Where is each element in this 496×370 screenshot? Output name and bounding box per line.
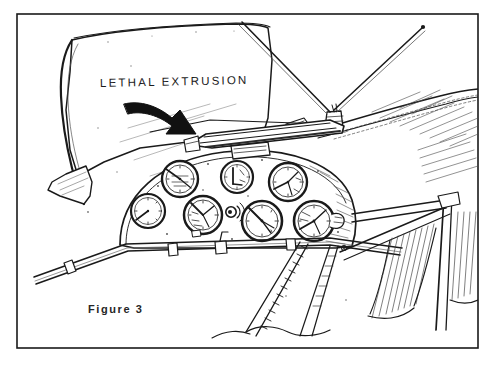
gauge-upper-left — [162, 161, 198, 197]
figure-container: LETHAL EXTRUSION Figure 3 — [0, 0, 496, 370]
gauge-lower-far-left — [131, 194, 165, 228]
side-knob — [330, 213, 344, 228]
figure-illustration — [0, 0, 496, 370]
figure-caption: Figure 3 — [88, 303, 144, 315]
gauge-lower-mid — [242, 201, 282, 241]
gauge-upper-right — [269, 163, 307, 201]
gauge-upper-mid — [221, 161, 253, 193]
